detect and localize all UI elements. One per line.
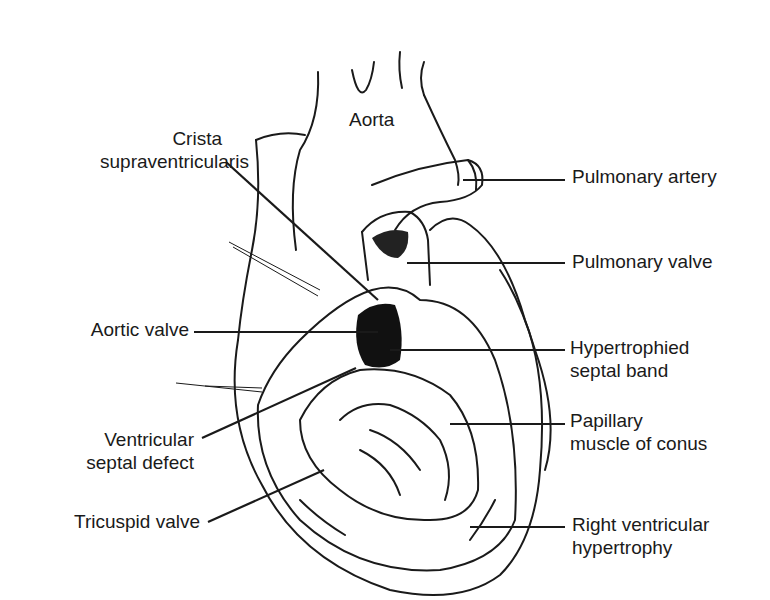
label-aortic-valve: Aortic valve — [60, 318, 189, 341]
label-tricuspid-valve: Tricuspid valve — [40, 510, 200, 533]
pulmonary-valve-shading — [372, 230, 408, 258]
aorta-right-wall — [424, 95, 459, 185]
label-right-ventricular-hypertrophy: Right ventricular hypertrophy — [572, 513, 709, 559]
label-hypertrophied-septal-band: Hypertrophied septal band — [570, 336, 689, 382]
label-aorta: Aorta — [349, 108, 394, 131]
vessel-branch-right — [421, 62, 424, 95]
vessel-branch-mid — [399, 52, 402, 88]
aorta-left-wall — [293, 72, 318, 250]
leader-vsd — [202, 368, 356, 438]
leader-tricuspid — [208, 470, 324, 522]
pulmonary-artery-outline — [372, 160, 482, 230]
probe-upper — [229, 242, 320, 290]
label-pulmonary-artery: Pulmonary artery — [572, 165, 717, 188]
label-papillary-muscle-of-conus: Papillary muscle of conus — [570, 409, 707, 455]
label-crista-supraventricularis: Crista supraventricularis — [100, 127, 222, 173]
heart-diagram: Aorta Crista supraventricularis Pulmonar… — [0, 0, 770, 600]
ventricular-septal-defect-shading — [356, 304, 402, 368]
vessel-branch-left — [352, 62, 374, 93]
label-pulmonary-valve: Pulmonary valve — [572, 250, 712, 273]
leader-crista — [226, 162, 378, 300]
label-ventricular-septal-defect: Ventricular septal defect — [60, 428, 194, 474]
